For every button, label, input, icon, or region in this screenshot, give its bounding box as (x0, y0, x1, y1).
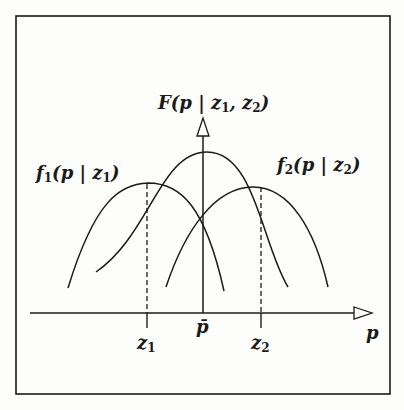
curve-F (96, 152, 288, 287)
f1-label: f1(p | z1) (36, 164, 119, 184)
tick-label-pbar: p̄ (196, 318, 209, 336)
diagram-canvas (0, 0, 404, 410)
tick-label-z2: z2 (251, 334, 270, 354)
x-axis-label: p (366, 324, 379, 342)
curve-f2 (166, 187, 328, 287)
combined-label: F(p | z1, z2) (158, 94, 269, 114)
f2-label: f2(p | z2) (277, 156, 360, 176)
x-axis-arrow-icon (354, 307, 372, 319)
y-axis-arrow-icon (197, 118, 209, 136)
tick-label-z1: z1 (137, 334, 156, 354)
curve-f1 (68, 183, 224, 291)
